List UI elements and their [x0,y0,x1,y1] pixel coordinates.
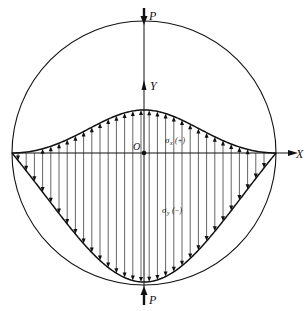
svg-text:y: y [166,210,170,216]
sigma-x-label: σ x (+) [165,135,186,146]
y-axis-label: Y [150,79,158,93]
load-label-top: P [148,9,157,23]
svg-text:x: x [169,140,173,146]
load-label-bottom: P [148,293,157,307]
svg-text:(−): (−) [172,206,183,215]
sigma-y-label: σ y (−) [162,205,183,216]
y-axis-arrowhead-icon [142,80,147,90]
load-arrow-bottom-icon [141,286,148,295]
origin-point [142,151,147,156]
svg-text:(+): (+) [175,136,186,145]
diagram-canvas: P P Y X O σ x (+) σ y (−) [0,0,308,311]
origin-label: O [133,141,140,152]
x-axis-label: X [295,147,304,161]
